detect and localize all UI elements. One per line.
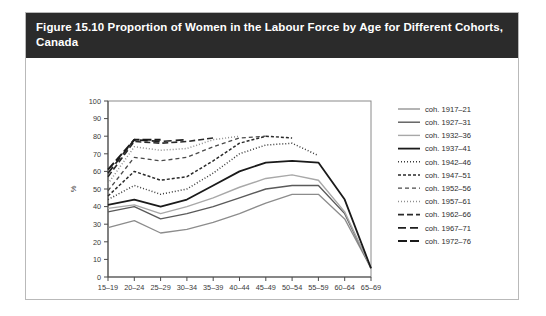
x-tick-label: 35–39: [203, 283, 223, 292]
y-tick-label: 80: [93, 132, 101, 141]
y-tick-label: 30: [93, 220, 101, 229]
x-tick-label: 30–34: [177, 283, 197, 292]
series-line-2: [108, 175, 371, 268]
series-line-3: [108, 161, 371, 268]
y-tick-label: 20: [93, 238, 101, 247]
series-line-0: [108, 194, 371, 268]
legend-label-5: coh. 1947–51: [425, 171, 471, 180]
legend-label-9: coh. 1967–71: [425, 224, 471, 233]
x-tick-label: 15–19: [98, 283, 118, 292]
x-tick-label: 60–64: [335, 283, 355, 292]
x-tick-label: 55–59: [308, 283, 328, 292]
x-tick-label: 20–24: [124, 283, 144, 292]
legend-label-1: coh. 1927–31: [425, 118, 471, 127]
page-title: Figure 15.10 Proportion of Women in the …: [36, 21, 503, 48]
y-tick-label: 100: [89, 97, 101, 106]
x-tick-label: 65–69: [361, 283, 381, 292]
x-tick-label: 25–29: [150, 283, 170, 292]
figure-container: Figure 15.10 Proportion of Women in the …: [25, 12, 519, 300]
legend-label-3: coh. 1937–41: [425, 144, 471, 153]
legend-label-10: coh. 1972–76: [425, 237, 471, 246]
line-chart: 0102030405060708090100%15–1920–2425–2930…: [26, 59, 518, 300]
legend-label-8: coh. 1962–66: [425, 210, 471, 219]
legend-label-7: coh. 1957–61: [425, 197, 471, 206]
plot-region: 0102030405060708090100%15–1920–2425–2930…: [26, 59, 518, 300]
y-tick-label: 50: [93, 185, 101, 194]
legend-label-2: coh. 1932–36: [425, 131, 471, 140]
x-tick-label: 45–49: [256, 283, 276, 292]
legend-label-0: coh. 1917–21: [425, 105, 471, 114]
x-tick-label: 40–44: [229, 283, 249, 292]
figure-title-bar: Figure 15.10 Proportion of Women in the …: [26, 13, 518, 58]
y-tick-label: 60: [93, 167, 101, 176]
y-tick-label: 10: [93, 255, 101, 264]
y-axis-title: %: [69, 185, 78, 192]
plot-frame: [108, 101, 371, 277]
y-tick-label: 70: [93, 150, 101, 159]
legend-label-4: coh. 1942–46: [425, 158, 471, 167]
legend-label-6: coh. 1952–56: [425, 184, 471, 193]
series-line-4: [108, 143, 318, 199]
y-tick-label: 0: [97, 273, 101, 282]
y-tick-label: 90: [93, 114, 101, 123]
x-tick-label: 50–54: [282, 283, 302, 292]
y-tick-label: 40: [93, 202, 101, 211]
